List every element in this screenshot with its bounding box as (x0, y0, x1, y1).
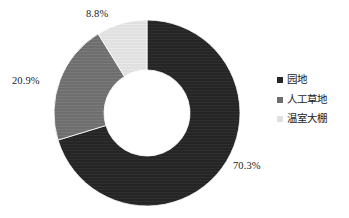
legend-item-label: 园地 (287, 75, 307, 86)
donut-chart: 8.8% 20.9% 70.3% 园地人工草地温室大棚 (0, 0, 349, 218)
legend-item[interactable]: 温室大棚 (277, 114, 327, 125)
legend-swatch-icon (277, 77, 283, 83)
slice-value-label-artificial-grassland: 20.9% (12, 76, 40, 87)
legend-item[interactable]: 人工草地 (277, 95, 327, 106)
chart-legend: 园地人工草地温室大棚 (277, 75, 327, 125)
legend-item[interactable]: 园地 (277, 75, 327, 86)
legend-swatch-icon (277, 116, 283, 122)
legend-item-label: 温室大棚 (287, 114, 327, 125)
slice-value-label-garden-land: 70.3% (233, 161, 261, 172)
legend-swatch-icon (277, 97, 283, 103)
donut-slices (54, 20, 240, 206)
legend-item-label: 人工草地 (287, 95, 327, 106)
slice-value-label-greenhouse: 8.8% (86, 9, 108, 20)
